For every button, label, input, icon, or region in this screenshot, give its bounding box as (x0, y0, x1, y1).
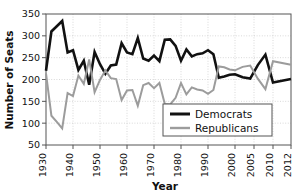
legend-label-republicans: Republicans (195, 122, 258, 134)
x-tick-label: 2010 (264, 153, 275, 177)
y-tick-label: 50 (28, 139, 40, 150)
y-tick-label: 300 (22, 30, 40, 41)
y-axis-ticks (42, 14, 46, 145)
x-tick-label: 1980 (172, 153, 183, 177)
y-tick-label: 200 (22, 74, 40, 85)
chart-canvas: 50100150200250300350 1930194019501960197… (0, 0, 306, 196)
x-tick-label: 1930 (37, 153, 48, 177)
y-tick-label: 250 (22, 52, 40, 63)
seats-by-party-line-chart: 50100150200250300350 1930194019501960197… (0, 0, 306, 196)
x-axis-ticks (46, 145, 291, 149)
y-axis-tick-labels: 50100150200250300350 (22, 8, 40, 150)
y-tick-label: 150 (22, 96, 40, 107)
x-tick-label: 1960 (118, 153, 129, 177)
x-tick-label: 2005 (245, 153, 256, 177)
chart-legend: DemocratsRepublicans (163, 104, 272, 136)
y-tick-label: 350 (22, 8, 40, 19)
y-axis-title: Number of Seats (3, 30, 15, 129)
x-tick-label: 2000 (226, 153, 237, 177)
legend-label-democrats: Democrats (195, 108, 252, 120)
x-axis-tick-labels: 1930194019501960197019801990200020052010… (37, 153, 293, 177)
x-tick-label: 1950 (91, 153, 102, 177)
x-tick-label: 1970 (145, 153, 156, 177)
x-tick-label: 1940 (64, 153, 75, 177)
x-tick-label: 1990 (199, 153, 210, 177)
x-tick-label: 2012 (282, 153, 293, 177)
y-tick-label: 100 (22, 118, 40, 129)
x-axis-title: Year (151, 180, 179, 192)
